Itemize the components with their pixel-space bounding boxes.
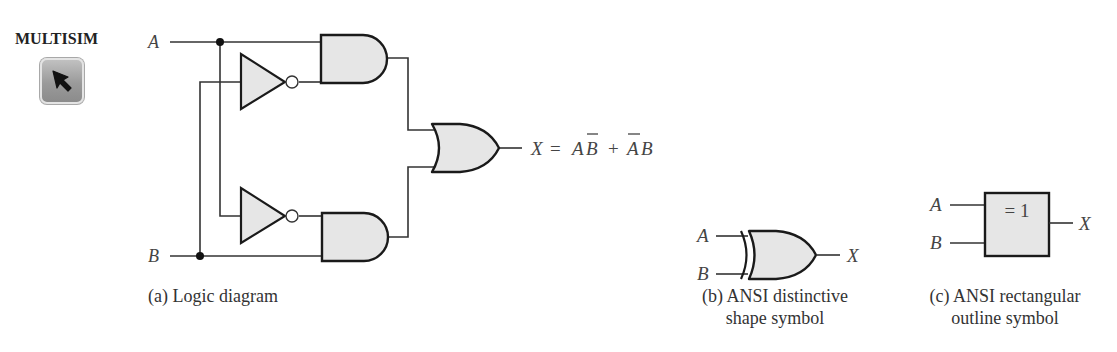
svg-text:B: B <box>641 138 653 159</box>
wire-and1-or <box>387 58 436 130</box>
caption-b-line1: (b) ANSI distinctive <box>680 285 870 307</box>
caption-c-line2: outline symbol <box>905 307 1105 329</box>
output-expression: X = A B + A B <box>530 134 653 159</box>
rect-box-label: = 1 <box>1005 200 1030 221</box>
svg-text:B: B <box>586 138 598 159</box>
and-gate-top <box>321 35 387 83</box>
junction-a <box>216 38 224 46</box>
xor-input-b: B <box>697 263 709 284</box>
not-gate-top <box>241 54 298 109</box>
svg-text:=: = <box>550 138 561 159</box>
and-gate-bottom <box>322 213 388 261</box>
xor-input-a: A <box>695 225 709 246</box>
wire-and2-or <box>388 167 436 237</box>
caption-c-line1: (c) ANSI rectangular <box>905 285 1105 307</box>
or-gate <box>432 124 499 172</box>
xor-output-x: X <box>846 245 860 266</box>
caption-ansi-distinctive: (b) ANSI distinctive shape symbol <box>680 285 870 329</box>
svg-text:X: X <box>530 138 544 159</box>
not-gate-bottom <box>241 188 298 243</box>
rect-input-a: A <box>928 194 942 215</box>
caption-b-line2: shape symbol <box>680 307 870 329</box>
wire-a-to-not <box>220 42 241 216</box>
rect-output-x: X <box>1078 213 1092 234</box>
junction-b <box>196 252 204 260</box>
svg-text:A: A <box>570 138 584 159</box>
svg-text:+: + <box>608 138 619 159</box>
rect-input-b: B <box>930 232 942 253</box>
input-label-b: B <box>148 246 159 266</box>
caption-logic-diagram: (a) Logic diagram <box>148 285 278 307</box>
caption-ansi-rectangular: (c) ANSI rectangular outline symbol <box>905 285 1105 329</box>
xor-gate-symbol <box>716 231 840 279</box>
input-label-a: A <box>147 32 160 52</box>
svg-text:A: A <box>625 138 639 159</box>
